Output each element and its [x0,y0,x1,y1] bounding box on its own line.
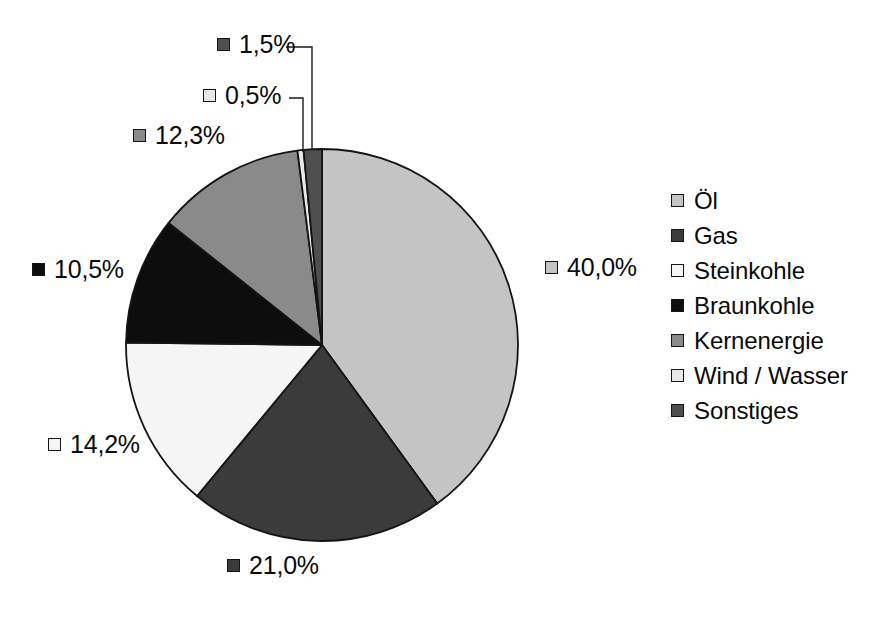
legend-item-gas[interactable]: Gas [671,218,871,253]
data-label-value-kernenergie: 12,3% [155,123,225,148]
legend-item-kernenergie[interactable]: Kernenergie [671,323,871,358]
legend-label-gas: Gas [694,224,738,248]
data-label-swatch-kernenergie [133,129,146,142]
data-label-swatch-wind-wasser [203,89,216,102]
data-label-braunkohle: 10,5% [32,257,124,282]
data-label-swatch-steinkohle [48,438,61,451]
data-label-value-steinkohle: 14,2% [70,432,140,457]
data-label-sonstiges: 1,5% [217,32,295,57]
legend-label-l: Öl [694,189,718,213]
leader-lines-group [286,47,312,152]
data-label-wind-wasser: 0,5% [203,83,281,108]
data-label-value-sonstiges: 1,5% [239,32,295,57]
legend-item-l[interactable]: Öl [671,183,871,218]
legend-swatch-wind-wasser [671,369,684,382]
legend-swatch-braunkohle [671,299,684,312]
data-label-l: 40,0% [545,255,637,280]
data-label-value-gas: 21,0% [249,553,319,578]
legend-label-braunkohle: Braunkohle [694,294,814,318]
data-label-swatch-braunkohle [32,263,45,276]
data-label-gas: 21,0% [227,553,319,578]
pie-chart-figure: 40,0%21,0%14,2%10,5%12,3%0,5%1,5% ÖlGasS… [0,0,884,617]
data-label-kernenergie: 12,3% [133,123,225,148]
data-label-swatch-gas [227,559,240,572]
leader-line-wind-wasser [289,98,303,152]
chart-legend: ÖlGasSteinkohleBraunkohleKernenergieWind… [671,183,871,428]
legend-label-sonstiges: Sonstiges [694,399,799,423]
legend-label-wind-wasser: Wind / Wasser [694,364,848,388]
data-label-swatch-sonstiges [217,38,230,51]
legend-item-sonstiges[interactable]: Sonstiges [671,393,871,428]
data-label-steinkohle: 14,2% [48,432,140,457]
legend-swatch-steinkohle [671,264,684,277]
data-label-value-braunkohle: 10,5% [54,257,124,282]
legend-item-steinkohle[interactable]: Steinkohle [671,253,871,288]
legend-swatch-gas [671,229,684,242]
pie-slices-group [126,149,518,541]
legend-swatch-sonstiges [671,404,684,417]
legend-label-kernenergie: Kernenergie [694,329,824,353]
legend-swatch-l [671,194,684,207]
data-label-value-wind-wasser: 0,5% [225,83,281,108]
legend-item-braunkohle[interactable]: Braunkohle [671,288,871,323]
legend-swatch-kernenergie [671,334,684,347]
data-label-swatch-l [545,261,558,274]
data-label-value-l: 40,0% [567,255,637,280]
legend-item-wind-wasser[interactable]: Wind / Wasser [671,358,871,393]
legend-label-steinkohle: Steinkohle [694,259,805,283]
